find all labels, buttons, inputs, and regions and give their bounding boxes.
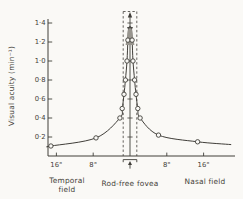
y-tick-label: 0·4 <box>35 114 46 122</box>
data-point-circle <box>156 133 160 137</box>
data-point-circle <box>136 106 140 110</box>
data-point-circle <box>134 92 138 96</box>
acuity-chart-svg: 0·20·40·60·81·01·21·416°8°8°16° <box>0 0 243 199</box>
y-axis-title: Visual acuity (min⁻¹) <box>7 46 16 126</box>
rod-free-fovea-label: Rod-free fovea <box>102 179 159 188</box>
axis-lines <box>48 19 235 156</box>
data-point-circle <box>94 136 98 140</box>
data-point-circle <box>120 106 124 110</box>
y-tick-label: 1·0 <box>35 57 46 65</box>
y-tick-label: 0·8 <box>35 76 46 84</box>
data-point-circle <box>126 38 130 42</box>
acuity-curve-path <box>47 26 232 147</box>
acuity-curve <box>47 26 232 147</box>
x-tick-label: 16° <box>198 161 210 169</box>
data-point-circle <box>138 116 142 120</box>
x-tick-label: 8° <box>163 161 171 169</box>
offscale-up-arrowhead <box>128 12 132 17</box>
y-tick-label: 1·4 <box>35 19 46 27</box>
data-point-circle <box>118 116 122 120</box>
data-point-circle <box>49 144 53 148</box>
data-point-circle <box>122 92 126 96</box>
temporal-field-label: Temporal field <box>43 176 91 195</box>
fovea-pointer-arrowhead <box>128 161 132 165</box>
data-point-circle <box>132 78 136 82</box>
x-tick-label: 16° <box>50 161 62 169</box>
y-tick-label: 1·2 <box>35 38 46 46</box>
data-point-circle <box>131 59 135 63</box>
data-point-circle <box>130 38 134 42</box>
data-point-circle <box>123 78 127 82</box>
figure-visual-acuity-chart: 0·20·40·60·81·01·21·416°8°8°16° Visual a… <box>0 0 243 199</box>
nasal-field-label: Nasal field <box>185 177 226 186</box>
data-point-circle <box>125 59 129 63</box>
y-tick-label: 0·2 <box>35 133 46 141</box>
data-point-circle <box>195 140 199 144</box>
x-tick-label: 8° <box>89 161 97 169</box>
fovea-bracket-arrow <box>123 160 137 169</box>
y-tick-label: 0·6 <box>35 95 46 103</box>
data-points <box>49 38 200 148</box>
axes <box>48 19 235 156</box>
